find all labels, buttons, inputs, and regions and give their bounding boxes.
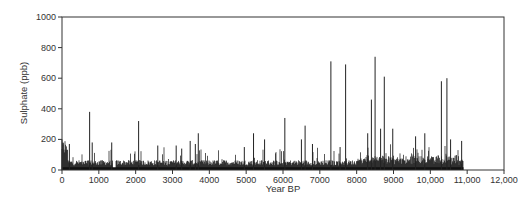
x-tick-label: 9000 [383,175,403,185]
x-axis-label: Year BP [266,183,301,194]
x-tick-label: 0 [59,175,64,185]
x-tick-label: 1000 [89,175,109,185]
y-tick-label: 600 [41,73,56,83]
x-tick-label: 4000 [199,175,219,185]
sulphate-chart: 02004006008001000 0100020003000400050006… [0,0,532,204]
x-tick-label: 5000 [236,175,256,185]
x-tick-label: 10,000 [417,175,445,185]
data-bars [62,57,463,170]
x-tick-label: 11,000 [454,175,481,185]
x-tick-label: 3000 [162,175,182,185]
y-tick-label: 1000 [36,12,56,22]
y-axis: 02004006008001000 [36,12,62,175]
y-tick-label: 200 [41,134,56,144]
x-tick-label: 2000 [126,175,146,185]
x-tick-label: 8000 [347,175,367,185]
y-axis-label: Sulphate (ppb) [18,62,29,124]
plot-frame [62,17,504,170]
y-tick-label: 800 [41,43,56,53]
y-tick-label: 0 [51,165,56,175]
y-tick-label: 400 [41,104,56,114]
x-tick-label: 12,000 [490,175,518,185]
x-tick-label: 7000 [310,175,330,185]
